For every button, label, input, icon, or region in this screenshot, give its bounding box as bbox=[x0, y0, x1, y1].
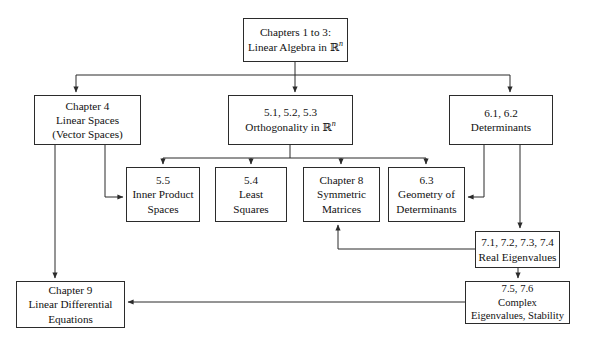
node-line: 5.4 bbox=[244, 173, 258, 187]
edge-chapter4-to-inner-product bbox=[105, 145, 123, 197]
node-chapters-1-to-3[interactable]: Chapters 1 to 3: Linear Algebra in ℝn bbox=[243, 18, 348, 62]
exponent-n: n bbox=[332, 119, 336, 128]
real-numbers-symbol: ℝ bbox=[330, 41, 339, 54]
node-line-text: Orthogonality in bbox=[245, 121, 322, 133]
node-line: Determinants bbox=[396, 202, 456, 216]
node-line: Eigenvalues, Stability bbox=[471, 309, 564, 322]
node-complex-eigenvalues[interactable]: 7.5, 7.6 Complex Eigenvalues, Stability bbox=[465, 281, 570, 324]
node-line: Determinants bbox=[471, 120, 531, 134]
node-line: Chapters 1 to 3: bbox=[260, 25, 331, 39]
node-line: 6.1, 6.2 bbox=[484, 106, 518, 120]
node-line: 7.5, 7.6 bbox=[502, 282, 534, 295]
flowchart-canvas: Chapters 1 to 3: Linear Algebra in ℝn Ch… bbox=[0, 0, 590, 346]
node-line: 6.3 bbox=[420, 173, 434, 187]
edge-real-eigenvalues-to-symmetric bbox=[338, 225, 475, 249]
node-line: Complex bbox=[498, 296, 537, 309]
node-chapter-9[interactable]: Chapter 9 Linear Differential Equations bbox=[16, 281, 125, 328]
node-line: Symmetric bbox=[317, 187, 366, 201]
node-line: Chapter 8 bbox=[320, 173, 364, 187]
node-orthogonality[interactable]: 5.1, 5.2, 5.3 Orthogonality in ℝn bbox=[228, 95, 353, 145]
node-chapter-4[interactable]: Chapter 4 Linear Spaces (Vector Spaces) bbox=[34, 95, 141, 145]
node-least-squares[interactable]: 5.4 Least Squares bbox=[215, 167, 287, 222]
node-line: Inner Product bbox=[132, 187, 193, 201]
real-numbers-symbol: ℝ bbox=[322, 121, 331, 134]
node-inner-product-spaces[interactable]: 5.5 Inner Product Spaces bbox=[126, 167, 200, 222]
node-symmetric-matrices[interactable]: Chapter 8 Symmetric Matrices bbox=[303, 167, 380, 222]
node-real-eigenvalues[interactable]: 7.1, 7.2, 7.3, 7.4 Real Eigenvalues bbox=[475, 231, 560, 268]
exponent-n: n bbox=[339, 39, 343, 48]
node-line: Orthogonality in ℝn bbox=[245, 119, 335, 135]
node-line: 5.5 bbox=[156, 173, 170, 187]
node-line: Chapter 4 bbox=[66, 99, 110, 113]
node-geometry-of-determinants[interactable]: 6.3 Geometry of Determinants bbox=[388, 167, 465, 222]
node-line: Chapter 9 bbox=[49, 283, 93, 297]
node-line: Linear Algebra in ℝn bbox=[248, 39, 343, 55]
node-line: Real Eigenvalues bbox=[479, 250, 557, 264]
node-line-text: Linear Algebra in bbox=[248, 41, 330, 53]
node-line: (Vector Spaces) bbox=[52, 127, 123, 141]
node-line: Linear Spaces bbox=[56, 113, 119, 127]
node-determinants[interactable]: 6.1, 6.2 Determinants bbox=[449, 95, 553, 145]
node-line: Equations bbox=[48, 312, 93, 326]
edge-determinants-to-geometry bbox=[468, 145, 484, 197]
node-line: Squares bbox=[233, 202, 268, 216]
node-line: Matrices bbox=[322, 202, 361, 216]
node-line: Geometry of bbox=[398, 187, 455, 201]
node-line: 5.1, 5.2, 5.3 bbox=[264, 105, 317, 119]
node-line: Least bbox=[239, 187, 263, 201]
node-line: 7.1, 7.2, 7.3, 7.4 bbox=[481, 235, 554, 249]
node-line: Linear Differential bbox=[29, 297, 113, 311]
node-line: Spaces bbox=[147, 202, 178, 216]
